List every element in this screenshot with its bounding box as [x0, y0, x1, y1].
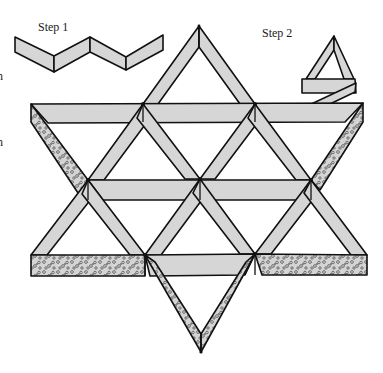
step-1-zigzag-strip — [15, 35, 163, 72]
star-diagram — [0, 0, 383, 373]
